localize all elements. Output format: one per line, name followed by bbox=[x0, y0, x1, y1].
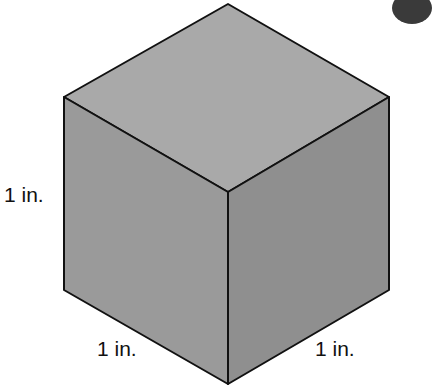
width-label: 1 in. bbox=[315, 337, 355, 361]
depth-label: 1 in. bbox=[97, 337, 137, 361]
height-label: 1 in. bbox=[4, 183, 44, 207]
